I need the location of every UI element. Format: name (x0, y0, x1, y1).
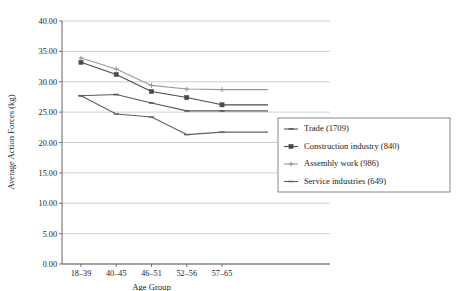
y-tick-label: 15.00 (39, 169, 57, 178)
data-point-marker (79, 60, 83, 64)
data-point-marker (185, 95, 189, 99)
x-tick-label: 46–51 (141, 269, 161, 278)
data-point-marker (114, 67, 119, 72)
series-line (81, 96, 222, 135)
legend-label: Construction industry (840) (304, 141, 400, 151)
x-tick-label: 52–56 (177, 269, 197, 278)
y-tick-label: 20.00 (39, 139, 57, 148)
y-tick-label: 5.00 (43, 230, 57, 239)
data-point-marker (149, 83, 154, 88)
data-point-marker (78, 56, 83, 61)
x-axis-ticks: 18–3940–4546–5152–5657–65 (71, 264, 232, 278)
legend-label: Service industries (649) (304, 176, 386, 186)
y-tick-label: 35.00 (39, 47, 57, 56)
y-tick-label: 30.00 (39, 78, 57, 87)
data-point-marker (220, 103, 224, 107)
data-point-marker (114, 72, 118, 76)
data-point-marker (219, 87, 224, 92)
series-0 (78, 95, 268, 111)
data-point-marker (184, 87, 189, 92)
chart-legend: Trade (1709)Construction industry (840)A… (278, 118, 450, 192)
series-1 (79, 60, 268, 107)
x-tick-label: 40–45 (106, 269, 126, 278)
x-axis-title: Age Group (132, 282, 170, 291)
chart-container: 0.005.0010.0015.0020.0025.0030.0035.0040… (0, 0, 456, 291)
data-point-marker (149, 89, 153, 93)
y-tick-label: 25.00 (39, 108, 57, 117)
series-3 (78, 96, 268, 135)
y-tick-label: 40.00 (39, 17, 57, 26)
y-axis-ticks: 0.005.0010.0015.0020.0025.0030.0035.0040… (39, 17, 62, 269)
legend-label: Assembly work (986) (304, 158, 379, 168)
legend-label: Trade (1709) (304, 123, 349, 133)
series-2 (78, 56, 268, 92)
data-point-marker (289, 144, 293, 148)
line-chart: 0.005.0010.0015.0020.0025.0030.0035.0040… (0, 0, 456, 291)
series-layer (78, 56, 268, 135)
x-tick-label: 57–65 (212, 269, 232, 278)
y-tick-label: 0.00 (43, 260, 57, 269)
x-tick-label: 18–39 (71, 269, 91, 278)
y-axis-title: Average Action Forces (kg) (6, 94, 16, 189)
y-tick-label: 10.00 (39, 199, 57, 208)
